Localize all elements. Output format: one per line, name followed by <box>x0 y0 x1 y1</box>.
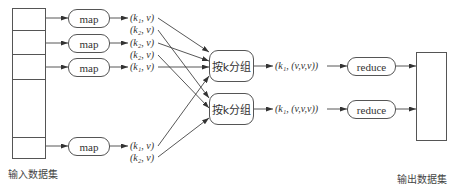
map-node-4: map <box>68 137 110 156</box>
input-dataset <box>12 8 46 159</box>
map-output-label: (k₁, v) <box>130 12 154 23</box>
reduce-node-1: reduce <box>347 57 396 76</box>
group-by-key-node-1: 按k分组 <box>209 50 254 82</box>
group-output-label: (k₁, (v,v,v)) <box>275 103 318 114</box>
row-divider <box>13 30 45 31</box>
map-node-2: map <box>68 34 110 53</box>
map-node-1: map <box>68 9 110 28</box>
row-divider <box>13 79 45 80</box>
map-output-label: (k₂, v) <box>130 37 154 48</box>
group-by-key-node-2: 按k分组 <box>209 93 254 125</box>
map-output-label: (k₂, v) <box>130 152 154 163</box>
row-divider <box>13 54 45 55</box>
map-node-3: map <box>68 58 110 77</box>
output-dataset <box>416 52 447 141</box>
map-output-label: (k₁, v) <box>130 140 154 151</box>
reduce-node-2: reduce <box>347 100 396 119</box>
map-output-label: (k₂, v) <box>130 49 154 60</box>
map-output-label: (k₁, v) <box>130 61 154 72</box>
map-output-label: (k₂, v) <box>130 24 154 35</box>
group-output-label: (k₁, (v,v,v)) <box>275 60 318 71</box>
row-divider <box>13 137 45 138</box>
input-caption: 输入数据集 <box>8 166 58 181</box>
output-caption: 输出数据集 <box>397 171 447 185</box>
